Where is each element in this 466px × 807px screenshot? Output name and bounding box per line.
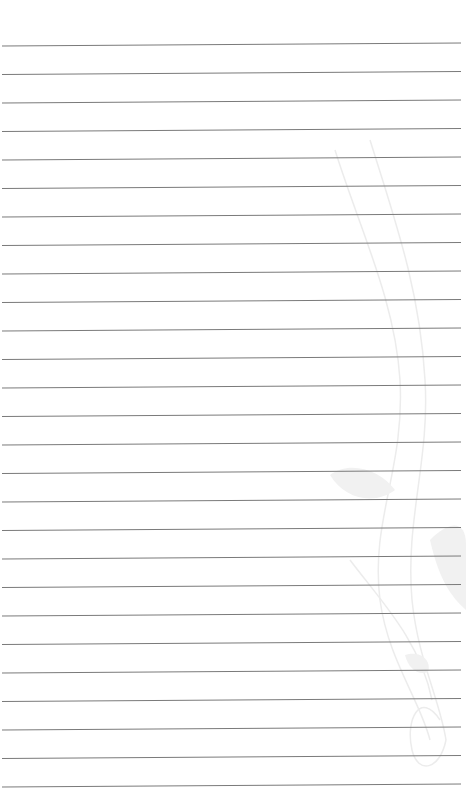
ruled-line (2, 556, 461, 559)
ruled-line (2, 43, 461, 46)
ruled-line (2, 72, 461, 75)
ruled-line (2, 100, 461, 103)
ruled-line (2, 727, 461, 730)
ruled-line (2, 471, 461, 474)
ruled-line (2, 243, 461, 246)
ruled-lines (0, 0, 466, 807)
ruled-line (2, 699, 461, 702)
ruled-line (2, 328, 461, 331)
ruled-line (2, 585, 461, 588)
ruled-line (2, 157, 461, 160)
ruled-line (2, 499, 461, 502)
ruled-line (2, 670, 461, 673)
ruled-line (2, 414, 461, 417)
ruled-line (2, 756, 461, 759)
ruled-line (2, 300, 461, 303)
ruled-line (2, 129, 461, 132)
ruled-line (2, 271, 461, 274)
ruled-line (2, 186, 461, 189)
ruled-line (2, 528, 461, 531)
ruled-line (2, 784, 461, 787)
lined-paper-page (0, 0, 466, 807)
ruled-line (2, 357, 461, 360)
ruled-line (2, 385, 461, 388)
ruled-line (2, 442, 461, 445)
ruled-line (2, 613, 461, 616)
ruled-line (2, 214, 461, 217)
ruled-line (2, 642, 461, 645)
